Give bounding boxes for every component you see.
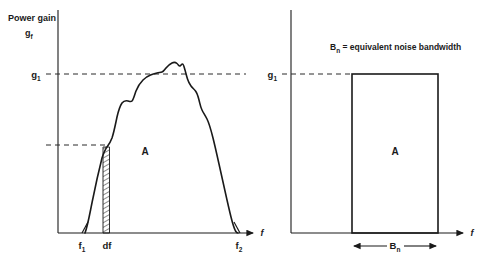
noise-bandwidth-figure: Power gain gf g1 A f1 <box>0 0 488 263</box>
left-area-label: A <box>141 146 148 157</box>
left-y-axis-label-line1: Power gain <box>8 13 56 23</box>
right-x-axis-label: f <box>471 228 475 238</box>
right-panel: Bn = equivalent noise bandwidth g1 A Bn … <box>268 10 475 253</box>
left-y-axis-label-line2: gf <box>25 28 34 40</box>
figure-svg: Power gain gf g1 A f1 <box>0 0 488 263</box>
f1-tick-label: f1 <box>79 240 86 253</box>
noise-bandwidth-note: Bn = equivalent noise bandwidth <box>330 42 461 54</box>
df-tick-label: df <box>103 240 113 251</box>
df-hatched-strip <box>103 147 110 233</box>
right-area-label: A <box>391 146 398 157</box>
left-g1-tick-label: g1 <box>31 69 41 82</box>
bandwidth-label: Bn <box>390 240 401 253</box>
left-panel: Power gain gf g1 A f1 <box>8 10 265 253</box>
f2-tick-label: f2 <box>236 240 243 253</box>
left-x-axis-label: f <box>261 228 265 238</box>
right-g1-tick-label: g1 <box>268 69 278 82</box>
